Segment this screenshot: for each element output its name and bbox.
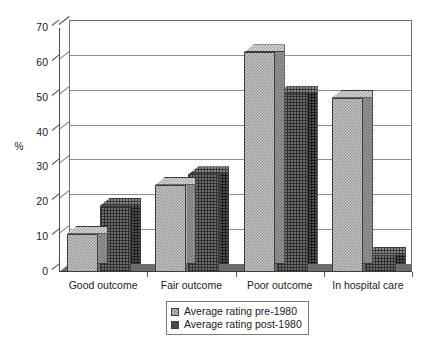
legend-label-pre-1980: Average rating pre-1980 xyxy=(184,306,297,317)
bar-top xyxy=(155,177,196,185)
y-tick-label: 10 xyxy=(22,231,48,241)
bar-side xyxy=(275,44,285,264)
x-axis-category-label: Good outcome xyxy=(59,279,147,291)
legend-swatch-icon-pre-1980 xyxy=(171,308,179,316)
bar-chart: % 010203040506070 Good outcomeFair outco… xyxy=(0,0,430,341)
x-axis-category-label: Poor outcome xyxy=(236,279,324,291)
x-tick-mark xyxy=(412,272,413,277)
bar-face xyxy=(244,52,275,272)
bar-side xyxy=(131,198,141,264)
bar-top xyxy=(188,166,229,174)
bar-side xyxy=(363,90,373,264)
y-axis-line xyxy=(59,28,60,272)
plot-frame-back-right xyxy=(411,20,412,264)
chart-legend: Average rating pre-1980 Average rating p… xyxy=(166,301,309,335)
plot-frame-diagonal xyxy=(59,16,70,25)
gridline-connector xyxy=(59,121,70,130)
bar-top xyxy=(244,44,285,52)
x-tick-mark xyxy=(236,272,237,277)
plot-frame-back-left xyxy=(69,20,70,264)
x-tick-mark xyxy=(324,272,325,277)
plot-frame-top xyxy=(69,20,412,21)
x-axis-category-label: In hospital care xyxy=(324,279,412,291)
bar xyxy=(244,52,275,272)
legend-item-pre-1980: Average rating pre-1980 xyxy=(171,305,302,318)
y-tick-label: 30 xyxy=(22,161,48,171)
bar-face xyxy=(332,98,363,272)
y-tick-label: 60 xyxy=(22,57,48,67)
gridline xyxy=(69,55,412,56)
bar-top xyxy=(332,90,373,98)
y-tick-label: 40 xyxy=(22,127,48,137)
y-tick-label: 50 xyxy=(22,92,48,102)
bar xyxy=(67,234,98,272)
y-axis-label: % xyxy=(8,141,30,152)
x-tick-mark xyxy=(147,272,148,277)
bar-side xyxy=(308,86,318,264)
bar-side xyxy=(186,177,196,264)
x-axis-category-label: Fair outcome xyxy=(147,279,235,291)
gridline-connector xyxy=(59,190,70,199)
bar-face xyxy=(155,185,186,272)
gridline-connector xyxy=(59,156,70,165)
legend-swatch-icon-post-1980 xyxy=(171,321,179,329)
bar-face xyxy=(67,234,98,272)
legend-item-post-1980: Average rating post-1980 xyxy=(171,318,302,331)
y-tick-label: 70 xyxy=(22,22,48,32)
gridline-connector xyxy=(59,86,70,95)
bar-side xyxy=(219,166,229,264)
bar-top xyxy=(67,226,108,234)
y-tick-label: 20 xyxy=(22,196,48,206)
bar-top xyxy=(100,198,141,206)
bar xyxy=(332,98,363,272)
legend-label-post-1980: Average rating post-1980 xyxy=(184,319,302,330)
y-tick-label: 0 xyxy=(22,266,48,276)
gridline-connector xyxy=(59,51,70,60)
bar xyxy=(155,185,186,272)
